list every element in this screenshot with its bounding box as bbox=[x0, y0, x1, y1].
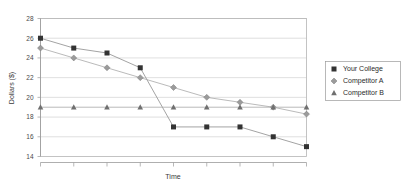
y-axis-title: Dollars ($) bbox=[8, 72, 16, 104]
chart-container: 2826242220181614 Dollars ($) Time Your C… bbox=[0, 0, 408, 188]
y-axis-tick-labels: 2826242220181614 bbox=[26, 15, 34, 160]
y-tick-label: 28 bbox=[26, 15, 34, 22]
x-axis-title: Time bbox=[165, 173, 180, 180]
x-axis-tickmarks bbox=[41, 163, 307, 167]
data-point-marker bbox=[271, 134, 276, 139]
series-1 bbox=[38, 36, 309, 149]
y-tick-label: 24 bbox=[26, 54, 34, 61]
line-chart: 2826242220181614 Dollars ($) Time Your C… bbox=[0, 0, 408, 188]
legend: Your CollegeCompetitor ACompetitor B bbox=[326, 62, 401, 101]
y-tick-label: 16 bbox=[26, 133, 34, 140]
data-point-marker bbox=[105, 51, 110, 56]
data-point-marker bbox=[304, 144, 309, 149]
legend-item-label: Competitor A bbox=[343, 77, 384, 85]
data-point-marker bbox=[137, 75, 143, 81]
data-point-marker bbox=[38, 36, 43, 41]
y-tick-label: 14 bbox=[26, 153, 34, 160]
legend-item-label: Competitor B bbox=[343, 89, 384, 97]
data-point-marker bbox=[204, 94, 210, 100]
series-3 bbox=[38, 104, 310, 109]
legend-item-label: Your College bbox=[343, 65, 383, 73]
data-point-marker bbox=[204, 124, 209, 129]
data-point-marker bbox=[38, 45, 44, 51]
data-point-marker bbox=[332, 67, 337, 72]
y-tick-label: 22 bbox=[26, 74, 34, 81]
data-point-marker bbox=[171, 124, 176, 129]
y-tick-label: 20 bbox=[26, 94, 34, 101]
data-point-marker bbox=[304, 111, 310, 117]
data-point-marker bbox=[104, 65, 110, 71]
series-line bbox=[41, 38, 307, 146]
data-point-marker bbox=[238, 124, 243, 129]
data-point-marker bbox=[71, 55, 77, 61]
plot-gridlines bbox=[41, 19, 307, 137]
data-point-marker bbox=[71, 46, 76, 51]
data-point-marker bbox=[171, 85, 177, 91]
y-tick-label: 26 bbox=[26, 35, 34, 42]
y-tick-label: 18 bbox=[26, 113, 34, 120]
data-point-marker bbox=[138, 65, 143, 70]
series-layer bbox=[38, 36, 310, 149]
